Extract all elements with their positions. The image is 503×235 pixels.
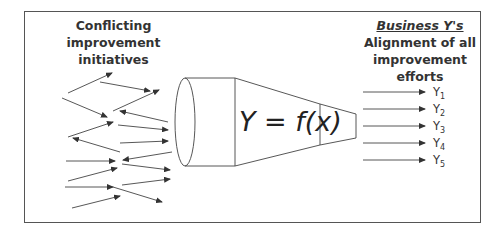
conflicting-arrows bbox=[62, 73, 172, 208]
output-label-y1: Y1 bbox=[432, 85, 445, 101]
output-label-y2: Y2 bbox=[432, 102, 445, 118]
output-arrows bbox=[363, 92, 425, 160]
funnel-equation: Y = f(x) bbox=[239, 106, 342, 137]
output-labels: Y1 Y2 Y3 Y4 Y5 bbox=[432, 85, 445, 169]
output-label-y3: Y3 bbox=[432, 119, 445, 135]
output-label-y4: Y4 bbox=[432, 136, 445, 152]
output-label-y5: Y5 bbox=[432, 153, 445, 169]
funnel-diagram: Y = f(x) Y1 Y2 Y3 Y4 Y5 bbox=[0, 0, 503, 235]
